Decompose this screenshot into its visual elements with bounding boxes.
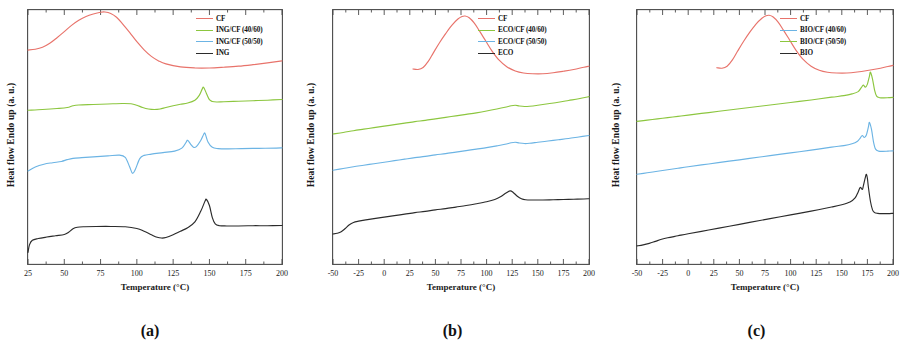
x-tick-label: 75	[457, 269, 465, 278]
x-tick-label: 125	[167, 269, 179, 278]
curve-bio-cf-40-60-	[637, 122, 893, 174]
x-tick-label: 50	[431, 269, 439, 278]
panel-b: Heat flow Endo up (a. u.) -50-2502550751…	[300, 0, 605, 344]
legend-item: ECO	[478, 48, 546, 60]
legend-swatch-icon	[196, 41, 213, 42]
curve-ing	[28, 199, 282, 252]
panel-label-a: (a)	[0, 322, 300, 340]
x-tick-label: 175	[557, 269, 569, 278]
legend-item: ING	[196, 48, 262, 60]
x-tick-label: 200	[276, 269, 288, 278]
curve-bio-cf-50-50-	[637, 72, 893, 121]
legend-item: BIO/CF (50/50)	[780, 36, 846, 48]
x-tick-label: 100	[785, 269, 797, 278]
legend-swatch-icon	[478, 30, 495, 31]
x-tick-label: -50	[632, 269, 643, 278]
legend-item: BIO/CF (40/60)	[780, 25, 846, 37]
legend-swatch-icon	[780, 41, 797, 42]
curve-ing-cf-40-60-	[28, 87, 282, 110]
legend-label: BIO/CF (40/60)	[800, 26, 846, 34]
legend-label: BIO/CF (50/50)	[800, 38, 846, 46]
x-tick-label: 175	[240, 269, 252, 278]
legend-item: BIO	[780, 48, 846, 60]
x-tick-label: 50	[735, 269, 743, 278]
x-tick-label: 0	[686, 269, 690, 278]
legend-swatch-icon	[196, 53, 213, 54]
legend-label: ECO	[498, 49, 513, 57]
legend-swatch-icon	[780, 53, 797, 54]
legend-label: CF	[498, 15, 507, 23]
dsc-thermogram-figure: Heat flow Endo up (a. u.) 25507510012515…	[0, 0, 908, 344]
legend-c: CFBIO/CF (40/60)BIO/CF (50/50)BIO	[780, 13, 846, 59]
x-tick-label: 25	[710, 269, 718, 278]
x-tick-label: 100	[481, 269, 493, 278]
x-tick-label: -50	[328, 269, 339, 278]
legend-b: CFECO/CF (40/60)ECO/CF (50/50)ECO	[478, 13, 546, 59]
legend-label: ECO/CF (40/60)	[498, 26, 546, 34]
legend-swatch-icon	[478, 53, 495, 54]
x-tick-label: 125	[506, 269, 518, 278]
plot-frame	[333, 10, 590, 265]
curve-eco-cf-50-50-	[333, 135, 589, 170]
legend-label: CF	[216, 15, 225, 23]
panel-label-c: (c)	[605, 322, 908, 340]
plot-area-b	[332, 9, 590, 265]
legend-label: ECO/CF (50/50)	[498, 38, 546, 46]
curve-eco	[333, 191, 589, 234]
legend-label: CF	[800, 15, 809, 23]
x-tick-label: 75	[761, 269, 769, 278]
legend-swatch-icon	[478, 41, 495, 42]
plot-frame	[637, 10, 894, 265]
x-tick-label: -25	[353, 269, 364, 278]
legend-item: CF	[196, 13, 262, 25]
x-tick-label: 150	[836, 269, 848, 278]
x-tick-label: 175	[861, 269, 873, 278]
legend-swatch-icon	[780, 18, 797, 19]
curve-eco-cf-40-60-	[333, 97, 589, 134]
x-tick-label: 150	[203, 269, 215, 278]
legend-label: ING	[216, 49, 229, 57]
x-tick-label: 125	[810, 269, 822, 278]
panel-label-b: (b)	[300, 322, 605, 340]
x-tick-label: 150	[532, 269, 544, 278]
x-axis-label-c: Temperature (°C)	[636, 282, 894, 292]
panel-a: Heat flow Endo up (a. u.) 25507510012515…	[0, 0, 300, 344]
y-axis-label-a: Heat flow Endo up (a. u.)	[2, 6, 20, 264]
x-tick-label: 25	[406, 269, 414, 278]
legend-item: CF	[478, 13, 546, 25]
legend-item: ECO/CF (40/60)	[478, 25, 546, 37]
curve-bio	[637, 174, 893, 246]
legend-swatch-icon	[196, 30, 213, 31]
x-tick-label: 200	[583, 269, 595, 278]
curve-ing-cf-50-50-	[28, 133, 282, 173]
x-tick-label: 200	[887, 269, 899, 278]
legend-item: ECO/CF (50/50)	[478, 36, 546, 48]
plot-svg-b	[332, 9, 590, 265]
legend-item: ING/CF (40/60)	[196, 25, 262, 37]
x-tick-label: 50	[60, 269, 68, 278]
x-axis-label-a: Temperature (°C)	[27, 282, 283, 292]
legend-swatch-icon	[196, 18, 213, 19]
x-tick-label: 25	[24, 269, 32, 278]
legend-label: ING/CF (50/50)	[216, 38, 262, 46]
legend-label: ING/CF (40/60)	[216, 26, 262, 34]
legend-swatch-icon	[478, 18, 495, 19]
x-axis-label-b: Temperature (°C)	[332, 282, 590, 292]
legend-item: ING/CF (50/50)	[196, 36, 262, 48]
legend-swatch-icon	[780, 30, 797, 31]
legend-a: CFING/CF (40/60)ING/CF (50/50)ING	[196, 13, 262, 59]
x-tick-label: 0	[382, 269, 386, 278]
x-tick-label: -25	[657, 269, 668, 278]
x-tick-label: 75	[97, 269, 105, 278]
y-axis-label-c: Heat flow Endo up (a. u.)	[607, 6, 625, 264]
x-tick-label: 100	[131, 269, 143, 278]
y-axis-label-b: Heat flow Endo up (a. u.)	[302, 6, 320, 264]
panel-c: Heat flow Endo up (a. u.) -50-2502550751…	[605, 0, 908, 344]
legend-label: BIO	[800, 49, 813, 57]
legend-item: CF	[780, 13, 846, 25]
plot-area-c	[636, 9, 894, 265]
plot-svg-c	[636, 9, 894, 265]
